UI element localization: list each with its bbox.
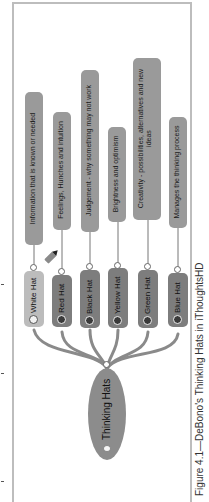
white-hat-icon xyxy=(29,315,38,324)
description-box-white: Information that is known or needed xyxy=(25,92,43,245)
description-box-blue: Manages the thinking process xyxy=(169,117,187,228)
description-text: Judgement - why something may not work xyxy=(85,73,93,228)
figure-caption: Figure 4.1—DeBono's Thinking Hats in iTh… xyxy=(193,256,207,496)
node-white-hat[interactable]: White Hat xyxy=(24,271,44,327)
green-hat-icon xyxy=(143,316,152,325)
collapse-knob[interactable] xyxy=(144,263,151,270)
central-node[interactable]: Thinking Hats xyxy=(88,368,126,460)
node-label: Red Hat xyxy=(57,284,66,313)
node-blue-hat[interactable]: Blue Hat xyxy=(168,273,188,327)
description-box-green: Creativity - possibilities, alternatives… xyxy=(133,58,161,220)
node-label: Black Hat xyxy=(85,280,94,314)
collapse-knob[interactable] xyxy=(86,263,93,270)
node-black-hat[interactable]: Black Hat xyxy=(80,270,100,328)
description-text: Manages the thinking process xyxy=(173,120,181,224)
description-box-black: Judgement - why something may not work xyxy=(81,70,99,232)
collapse-knob[interactable] xyxy=(30,264,37,271)
lightbulb-icon xyxy=(103,445,111,452)
node-label: Blue Hat xyxy=(173,282,182,313)
node-label: White Hat xyxy=(29,278,38,313)
description-box-yellow: Brightness and optimism xyxy=(108,127,126,222)
description-text: Creativity - possibilities, alternatives… xyxy=(137,61,153,216)
blue-hat-icon xyxy=(173,315,182,324)
black-hat-icon xyxy=(85,316,94,325)
node-green-hat[interactable]: Green Hat xyxy=(138,270,158,328)
node-red-hat[interactable]: Red Hat xyxy=(52,275,72,327)
description-text: Information that is known or needed xyxy=(29,96,37,241)
node-label: Yellow Hat xyxy=(113,276,122,314)
root-collapse-knob[interactable] xyxy=(103,361,110,368)
description-text: Feelings, Hunches and intuition xyxy=(57,114,65,226)
collapse-knob[interactable] xyxy=(58,268,65,275)
node-yellow-hat[interactable]: Yellow Hat xyxy=(108,268,128,328)
yellow-hat-icon xyxy=(113,316,122,325)
collapse-knob[interactable] xyxy=(174,266,181,273)
description-text: Brightness and optimism xyxy=(112,130,120,218)
red-hat-icon xyxy=(57,315,66,324)
central-label: Thinking Hats xyxy=(101,379,112,440)
description-box-red: Feelings, Hunches and intuition xyxy=(53,112,71,230)
node-label: Green Hat xyxy=(143,277,152,314)
